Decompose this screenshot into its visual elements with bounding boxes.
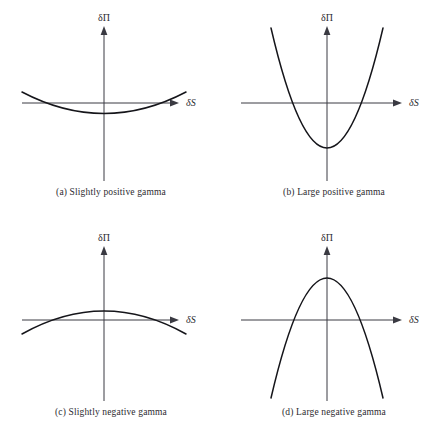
panel-d-y-axis-arrow [324,246,331,255]
panel-b-y-axis-arrow [324,26,331,35]
panel-b: δΠ δS (b) Large positive gamma [223,0,445,220]
panel-c: δΠ δS (c) Slightly negative gamma [0,220,222,440]
panel-b-caption: (b) Large positive gamma [223,186,445,198]
panel-a-x-axis-arrow [170,100,179,107]
panel-c-caption: (c) Slightly negative gamma [0,406,222,418]
panel-c-plot: δΠ δS [0,220,222,410]
gamma-payoff-figure: δΠ δS (a) Slightly positive gamma δΠ δS … [0,0,445,440]
panel-d-x-axis-label: δS [409,314,419,325]
panel-d: δΠ δS (d) Large negative gamma [223,220,445,440]
panel-c-y-axis-label: δΠ [98,232,110,243]
panel-a-y-axis-label: δΠ [98,12,110,23]
panel-b-x-axis-arrow [393,100,402,107]
panel-b-y-axis-label: δΠ [321,12,333,23]
panel-a-plot: δΠ δS [0,0,222,190]
panel-c-x-axis-arrow [170,317,179,324]
panel-d-x-axis-arrow [393,317,402,324]
panel-d-y-axis-label: δΠ [321,232,333,243]
panel-b-x-axis-label: δS [409,97,419,108]
panel-b-plot: δΠ δS [223,0,445,190]
panel-c-x-axis-label: δS [186,314,196,325]
panel-d-plot: δΠ δS [223,220,445,410]
panel-a: δΠ δS (a) Slightly positive gamma [0,0,222,220]
panel-c-y-axis-arrow [101,246,108,255]
panel-d-caption: (d) Large negative gamma [223,406,445,418]
panel-a-x-axis-label: δS [186,97,196,108]
panel-a-caption: (a) Slightly positive gamma [0,186,222,198]
panel-a-y-axis-arrow [101,26,108,35]
